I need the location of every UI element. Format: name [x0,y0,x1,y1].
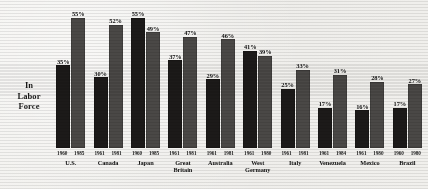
bar-group: 17%31% [314,6,351,148]
bar-late[interactable]: 28% [370,6,384,148]
tick-label-years: 19601980 [389,150,426,156]
bar-group-labels: 19611981GreatBritain [164,150,201,173]
bar-group: 29%46% [202,6,239,148]
bar-value-label: 55% [72,10,84,17]
bar-value-label: 37% [169,53,181,60]
bar-group: 37%47% [164,6,201,148]
tick-label-years: 19611980 [239,150,276,156]
bar-rect-early[interactable] [56,65,70,148]
bar-rect-late[interactable] [71,18,85,148]
bar-rect-late[interactable] [146,32,160,148]
bar-early[interactable]: 25% [281,6,295,148]
bar-group-bars: 30%52% [89,6,126,148]
bar-value-label: 55% [132,10,144,17]
country-label-line2: Britain [164,166,201,173]
bar-late[interactable]: 46% [221,6,235,148]
bar-late[interactable]: 33% [296,6,310,148]
bar-late[interactable]: 47% [183,6,197,148]
bar-rect-late[interactable] [221,39,235,148]
country-label: Venezuela [314,159,351,166]
bar-group: 55%49% [127,6,164,148]
tick-label-years: 19601985 [52,150,89,156]
bar-group-labels: 19611984Venezuela [314,150,351,166]
bar-group-labels: 19611980WestGermany [239,150,276,173]
country-label: Italy [276,159,313,166]
bar-rect-early[interactable] [355,110,369,148]
tick-label-years: 19611984 [314,150,351,156]
bar-group-bars: 17%31% [314,6,351,148]
bar-rect-late[interactable] [408,84,422,148]
bar-value-label: 46% [222,32,234,39]
bar-rect-late[interactable] [109,25,123,148]
bar-rect-early[interactable] [243,51,257,148]
year-label-late: 1984 [334,150,348,156]
bar-value-label: 30% [94,70,106,77]
bar-group-labels: 19601985U.S. [52,150,89,166]
bar-late[interactable]: 39% [258,6,272,148]
year-label-late: 1981 [184,150,198,156]
bar-value-label: 39% [259,48,271,55]
bar-rect-early[interactable] [281,89,295,148]
country-label: Australia [202,159,239,166]
country-label: U.S. [52,159,89,166]
bar-group-bars: 37%47% [164,6,201,148]
bar-rect-early[interactable] [168,60,182,148]
bar-chart: In Labor Force 35%55%30%52%55%49%37%47%2… [0,0,428,189]
bar-early[interactable]: 35% [56,6,70,148]
chart-axis-title: In Labor Force [6,80,52,112]
country-label: Canada [89,159,126,166]
bar-early[interactable]: 16% [355,6,369,148]
bar-value-label: 17% [394,100,406,107]
bar-early[interactable]: 37% [168,6,182,148]
bar-rect-early[interactable] [94,77,108,148]
year-label-late: 1981 [222,150,236,156]
year-label-late: 1980 [259,150,273,156]
bar-group: 16%28% [351,6,388,148]
year-label-late: 1981 [110,150,124,156]
country-label: Mexico [351,159,388,166]
bar-group-bars: 41%39% [239,6,276,148]
bar-late[interactable]: 27% [408,6,422,148]
bar-late[interactable]: 55% [71,6,85,148]
year-label-early: 1960 [130,150,144,156]
axis-title-line-2: Labor [6,91,52,102]
bar-group-bars: 35%55% [52,6,89,148]
tick-label-years: 19611980 [351,150,388,156]
bar-early[interactable]: 17% [318,6,332,148]
bar-early[interactable]: 41% [243,6,257,148]
bar-group-labels: 19611980Mexico [351,150,388,166]
bar-late[interactable]: 52% [109,6,123,148]
bar-rect-late[interactable] [258,56,272,148]
bar-group: 35%55% [52,6,89,148]
axis-title-line-1: In [6,80,52,91]
bar-late[interactable]: 49% [146,6,160,148]
year-label-late: 1980 [409,150,423,156]
bar-group-bars: 29%46% [202,6,239,148]
bar-early[interactable]: 55% [131,6,145,148]
bar-early[interactable]: 29% [206,6,220,148]
bar-value-label: 31% [334,67,346,74]
year-label-early: 1961 [242,150,256,156]
year-label-early: 1961 [317,150,331,156]
bar-value-label: 41% [244,43,256,50]
country-label: GreatBritain [164,159,201,173]
year-label-early: 1960 [55,150,69,156]
country-label-line2: Germany [239,166,276,173]
bar-rect-early[interactable] [318,108,332,148]
bar-rect-late[interactable] [370,82,384,148]
bar-rect-early[interactable] [393,108,407,148]
bar-rect-late[interactable] [183,37,197,148]
bar-rect-late[interactable] [333,75,347,148]
bar-early[interactable]: 17% [393,6,407,148]
tick-label-years: 19611981 [202,150,239,156]
bar-group-labels: 19611981Italy [276,150,313,166]
bar-group-bars: 16%28% [351,6,388,148]
bar-rect-late[interactable] [296,70,310,148]
bar-rect-early[interactable] [206,79,220,148]
bar-late[interactable]: 31% [333,6,347,148]
bar-early[interactable]: 30% [94,6,108,148]
bar-group: 17%27% [389,6,426,148]
bar-rect-early[interactable] [131,18,145,148]
bar-group: 41%39% [239,6,276,148]
tick-label-years: 19611981 [164,150,201,156]
